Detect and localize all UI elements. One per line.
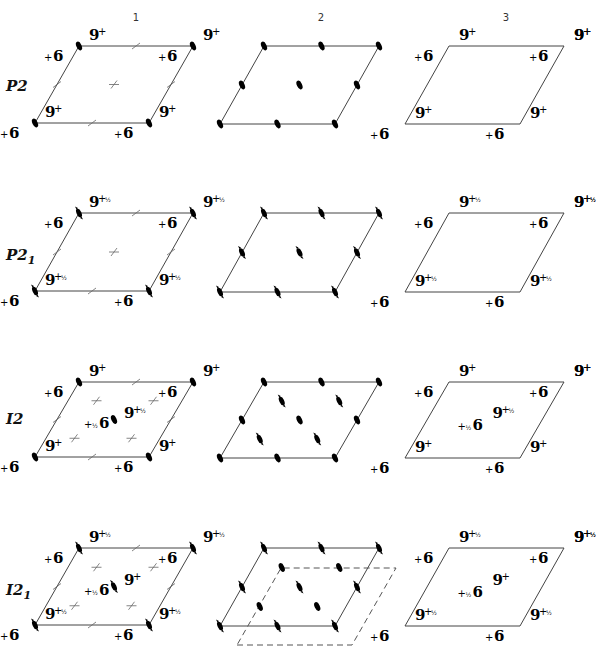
svg-text:+: + [424, 438, 432, 449]
svg-text:+: + [539, 438, 547, 449]
svg-text:+: + [370, 464, 378, 475]
column-3-cell: 9+½+69+½+69+½+69+½+69+½ [370, 193, 596, 311]
svg-text:+: + [158, 388, 166, 399]
svg-text:½: ½ [219, 531, 225, 538]
svg-text:+: + [529, 388, 537, 399]
molecule-six-icon: +6 [529, 549, 548, 567]
svg-text:½: ½ [475, 531, 481, 538]
svg-text:6: 6 [9, 626, 19, 644]
svg-text:6: 6 [473, 583, 483, 601]
molecule-six-icon: +6 [414, 549, 433, 567]
molecule-nine-icon: 9+½ [45, 271, 67, 289]
molecule-nine-icon: 9+ [45, 437, 62, 455]
svg-text:½: ½ [219, 196, 225, 203]
svg-text:½: ½ [475, 196, 481, 203]
molecule-nine-icon: 9+ [493, 571, 510, 589]
twofold-screw-axis-icon [313, 433, 321, 446]
molecule-six-icon: +6 [44, 214, 63, 232]
svg-text:+: + [529, 52, 537, 63]
mirror-tick-mark [167, 249, 175, 255]
row-i21: 9+½+69+½+69+½+69+½+69++½69+½+69+½+69+½+6… [0, 528, 596, 645]
svg-text:6: 6 [379, 627, 389, 645]
molecule-six-icon: +6 [44, 383, 63, 401]
row-label-i21: I21 [5, 581, 31, 602]
screw-axis-cross-mark [92, 563, 102, 571]
molecule-six-icon: +6 [414, 47, 433, 65]
svg-text:+: + [54, 437, 62, 448]
svg-text:+: + [485, 130, 493, 141]
molecule-six-icon: +6 [370, 125, 389, 143]
svg-text:+: + [485, 464, 493, 475]
screw-axis-cross-mark [127, 434, 137, 442]
svg-text:6: 6 [473, 416, 483, 434]
svg-text:+: + [424, 104, 432, 115]
svg-text:6: 6 [9, 292, 19, 310]
molecule-six-icon: +6 [485, 293, 504, 311]
molecule-six-icon: +6 [370, 293, 389, 311]
molecule-nine-icon: 9+½ [530, 606, 552, 624]
svg-text:+: + [414, 52, 422, 63]
molecule-nine-icon: 9+ [530, 438, 547, 456]
svg-text:+: + [0, 631, 8, 642]
svg-text:½: ½ [546, 609, 552, 616]
column-2-cell [216, 41, 384, 130]
svg-text:½: ½ [92, 422, 98, 429]
svg-text:+: + [44, 554, 52, 565]
molecule-nine-icon: 9+ [459, 26, 476, 44]
twofold-screw-axis-icon [335, 395, 343, 408]
row-p2: 9++69++69++69++69++69++69++69++69+ [0, 26, 591, 143]
svg-text:½: ½ [105, 531, 111, 538]
svg-text:½: ½ [466, 424, 472, 431]
svg-text:6: 6 [99, 581, 109, 599]
column-header-1: 1 [133, 12, 139, 23]
molecule-six-icon: +6 [114, 626, 133, 644]
mirror-tick-mark [167, 82, 175, 88]
svg-text:½: ½ [92, 589, 98, 596]
molecule-six-icon: +½6 [84, 581, 109, 599]
screw-axis-cross-mark [127, 602, 137, 610]
molecule-nine-icon: 9+ [203, 362, 220, 380]
svg-text:6: 6 [9, 458, 19, 476]
molecule-nine-icon: 9+ [415, 104, 432, 122]
twofold-screw-axis-icon [256, 433, 264, 446]
svg-text:+: + [44, 388, 52, 399]
molecule-six-icon: +6 [114, 124, 133, 142]
svg-text:½: ½ [546, 275, 552, 282]
column-header-3: 3 [503, 12, 509, 23]
svg-text:6: 6 [167, 549, 177, 567]
molecule-six-icon: +6 [158, 214, 177, 232]
svg-text:½: ½ [105, 196, 111, 203]
mirror-tick-mark [53, 82, 61, 88]
molecule-six-icon: +6 [114, 458, 133, 476]
molecule-six-icon: +6 [0, 458, 19, 476]
molecule-nine-icon: 9+½ [124, 404, 146, 422]
molecule-six-icon: +6 [414, 214, 433, 232]
svg-text:+: + [0, 297, 8, 308]
svg-text:6: 6 [9, 124, 19, 142]
svg-text:+: + [370, 298, 378, 309]
svg-text:6: 6 [494, 459, 504, 477]
screw-axis-cross-mark [92, 397, 102, 405]
molecule-nine-icon: 9+½ [530, 272, 552, 290]
molecule-nine-icon: 9+½ [415, 606, 437, 624]
svg-text:6: 6 [379, 293, 389, 311]
screw-axis-cross-mark [109, 248, 119, 256]
svg-text:+: + [468, 26, 476, 37]
molecule-nine-icon: 9+½ [45, 605, 67, 623]
svg-text:+: + [370, 632, 378, 643]
svg-text:6: 6 [494, 125, 504, 143]
row-i2: 9++69++69++69++69+½+½69++69++69++69++69+… [0, 362, 591, 477]
molecule-six-icon: +6 [529, 383, 548, 401]
molecule-nine-icon: 9+½ [89, 193, 111, 211]
molecule-nine-icon: 9+ [574, 362, 591, 380]
column-3-cell: 9++69++69++69++69+ [370, 26, 591, 143]
twofold-axis-icon [238, 415, 247, 426]
molecule-nine-icon: 9+ [89, 362, 106, 380]
svg-text:+: + [0, 463, 8, 474]
svg-text:6: 6 [494, 293, 504, 311]
row-label-p21: P21 [5, 246, 35, 267]
screw-axis-cross-mark [70, 434, 80, 442]
molecule-six-icon: +6 [529, 214, 548, 232]
svg-text:6: 6 [123, 124, 133, 142]
molecule-nine-icon: 9+½ [459, 193, 481, 211]
